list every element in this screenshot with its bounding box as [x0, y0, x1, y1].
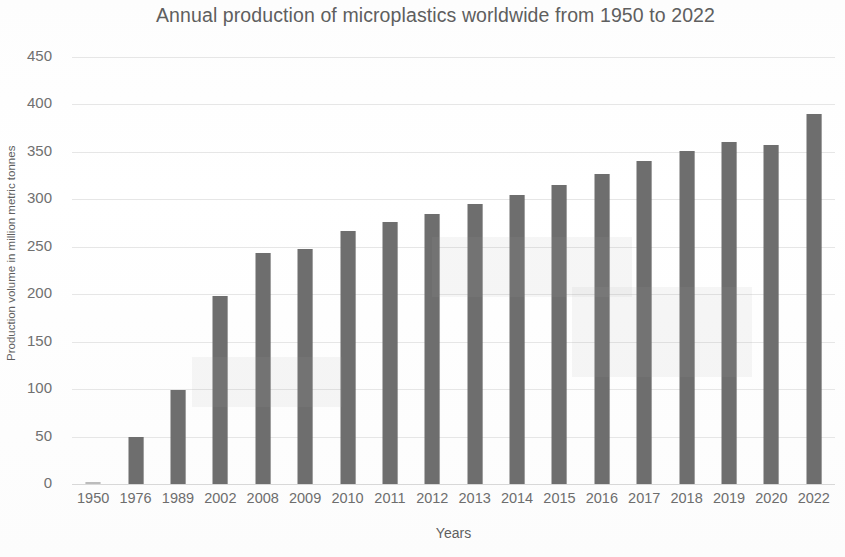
- y-axis-tick-label: 100: [12, 379, 52, 396]
- y-axis-tick-label: 300: [12, 189, 52, 206]
- bar: [382, 222, 397, 484]
- bar: [764, 145, 779, 484]
- y-axis-tick-label: 0: [12, 474, 52, 491]
- bar: [170, 390, 185, 484]
- bar-slot: [538, 57, 580, 484]
- bar-slot: [623, 57, 665, 484]
- x-axis-tick-label: 2011: [369, 490, 411, 506]
- y-axis-tick-label: 250: [12, 237, 52, 254]
- x-axis-tick-label: 2012: [411, 490, 453, 506]
- y-axis-tick-label: 150: [12, 332, 52, 349]
- bar-slot: [496, 57, 538, 484]
- x-axis-tick-label: 2015: [538, 490, 580, 506]
- x-axis-tick-label: 2002: [199, 490, 241, 506]
- gridline: [72, 484, 835, 485]
- bar-slot: [581, 57, 623, 484]
- bar: [637, 161, 652, 484]
- bar: [594, 174, 609, 484]
- x-axis-tick-label: 2014: [496, 490, 538, 506]
- bar: [213, 296, 228, 484]
- bar-slot: [750, 57, 792, 484]
- bar-slot: [665, 57, 707, 484]
- bar: [552, 185, 567, 484]
- x-axis-tick-label: 2019: [708, 490, 750, 506]
- bar: [340, 231, 355, 484]
- bar: [467, 204, 482, 484]
- bar-slot: [326, 57, 368, 484]
- x-axis-tick-label: 2017: [623, 490, 665, 506]
- bar-series: [72, 57, 835, 484]
- x-axis-tick-label: 1950: [72, 490, 114, 506]
- x-axis-tick-labels: 1950197619892002200820092010201120122013…: [72, 490, 835, 512]
- bar-slot: [411, 57, 453, 484]
- x-axis-tick-label: 2022: [793, 490, 835, 506]
- bar-slot: [369, 57, 411, 484]
- y-axis-tick-label: 50: [12, 427, 52, 444]
- x-axis-tick-label: 2008: [242, 490, 284, 506]
- x-axis-tick-label: 2016: [581, 490, 623, 506]
- bar: [298, 249, 313, 484]
- x-axis-title: Years: [72, 525, 835, 541]
- y-axis-tick-label: 450: [12, 47, 52, 64]
- bar: [425, 214, 440, 484]
- chart-page: Annual production of microplastics world…: [0, 0, 845, 557]
- y-axis-tick-label: 200: [12, 284, 52, 301]
- bar: [86, 482, 101, 484]
- x-axis-tick-label: 2013: [454, 490, 496, 506]
- bar-slot: [199, 57, 241, 484]
- bar: [255, 253, 270, 484]
- x-axis-tick-label: 1989: [157, 490, 199, 506]
- chart-title: Annual production of microplastics world…: [0, 4, 845, 27]
- bar-slot: [793, 57, 835, 484]
- bar-slot: [157, 57, 199, 484]
- bar: [679, 151, 694, 484]
- bar-slot: [242, 57, 284, 484]
- bar-slot: [72, 57, 114, 484]
- x-axis-tick-label: 2018: [665, 490, 707, 506]
- bar-slot: [114, 57, 156, 484]
- bar-slot: [284, 57, 326, 484]
- x-axis-tick-label: 2009: [284, 490, 326, 506]
- bar: [806, 114, 821, 484]
- bar: [128, 437, 143, 484]
- bar-slot: [454, 57, 496, 484]
- x-axis-tick-label: 2010: [326, 490, 368, 506]
- bar: [722, 142, 737, 484]
- x-axis-tick-label: 2020: [750, 490, 792, 506]
- y-axis-tick-label: 350: [12, 142, 52, 159]
- x-axis-tick-label: 1976: [114, 490, 156, 506]
- y-axis-tick-label: 400: [12, 94, 52, 111]
- plot-area: 050100150200250300350400450: [72, 57, 835, 484]
- bar-slot: [708, 57, 750, 484]
- bar: [510, 195, 525, 484]
